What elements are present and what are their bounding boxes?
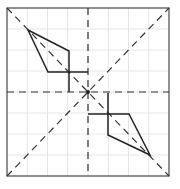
symmetry-diagram	[0, 0, 180, 189]
center-point	[86, 90, 90, 94]
